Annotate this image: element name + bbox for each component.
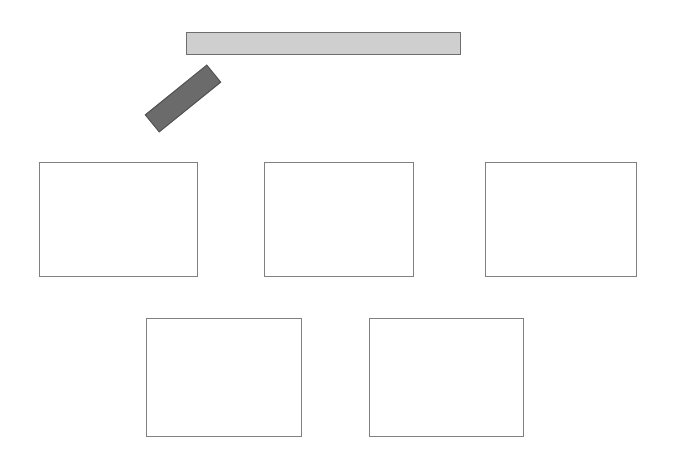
horizontal-bar-label xyxy=(186,32,187,33)
panel-2-content xyxy=(265,163,413,276)
horizontal-bar[interactable] xyxy=(186,32,461,55)
panel-5[interactable] xyxy=(369,318,524,437)
panel-2[interactable] xyxy=(264,162,414,277)
panel-1-content xyxy=(40,163,197,276)
tilted-bar-label xyxy=(145,114,146,115)
tilted-bar[interactable] xyxy=(145,64,222,132)
panel-1[interactable] xyxy=(39,162,198,277)
panel-4-content xyxy=(147,319,301,436)
panel-4[interactable] xyxy=(146,318,302,437)
shape-canvas xyxy=(0,0,674,475)
panel-3[interactable] xyxy=(485,162,637,277)
panel-5-content xyxy=(370,319,523,436)
panel-3-content xyxy=(486,163,636,276)
